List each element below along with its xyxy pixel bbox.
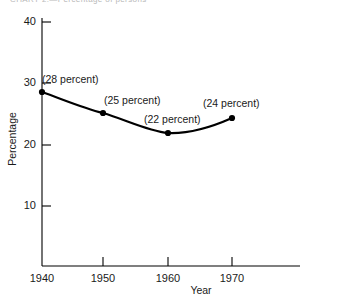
y-axis-tick-label-40: 40 [10, 15, 36, 27]
x-axis-tick-label-1970: 1970 [212, 272, 252, 284]
annotation-1970: (24 percent) [203, 97, 260, 109]
x-axis-tick-label-1950: 1950 [83, 272, 123, 284]
data-point-1950 [100, 110, 106, 116]
annotation-1940: (28 percent) [42, 73, 99, 85]
data-point-1970 [229, 115, 235, 121]
annotation-1960: (22 percent) [144, 113, 201, 125]
x-axis-tick-label-1960: 1960 [148, 272, 188, 284]
data-point-1960 [165, 130, 171, 136]
annotation-1950: (25 percent) [104, 94, 161, 106]
line-chart-svg [0, 0, 361, 301]
y-axis-tick-label-30: 30 [10, 76, 36, 88]
data-point-1940 [39, 89, 45, 95]
x-axis-title: Year [176, 284, 226, 296]
y-axis-tick-label-10: 10 [10, 199, 36, 211]
y-axis-title: Percentage [6, 106, 18, 172]
chart-container: CHART 2.—Percentage of persons 40 30 20 … [0, 0, 361, 301]
x-axis-tick-label-1940: 1940 [22, 272, 62, 284]
